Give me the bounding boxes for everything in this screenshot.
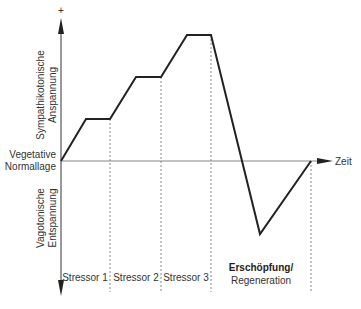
phase-label-stressor-1: Stressor 1 [62, 272, 108, 283]
svg-text:Normallage: Normallage [5, 161, 57, 172]
time-axis [61, 158, 333, 164]
upper-axis-label: Sympathikotonische Anspannung [35, 50, 58, 140]
stress-diagram: + Sympathikotonische Anspannung Vagotoni… [0, 0, 361, 309]
plus-symbol: + [58, 5, 64, 16]
phase-label-stressor-2: Stressor 2 [113, 272, 159, 283]
stress-curve [61, 35, 311, 234]
arrow-up-icon [58, 18, 64, 34]
svg-text:Anspannung: Anspannung [47, 67, 58, 123]
phase-separators [110, 35, 311, 292]
phase-label-regeneration: Regeneration [231, 275, 291, 286]
svg-text:Sympathikotonische: Sympathikotonische [35, 50, 46, 140]
svg-text:Vagotonische: Vagotonische [35, 188, 46, 248]
phase-label-stressor-3: Stressor 3 [163, 272, 209, 283]
arrow-right-icon [317, 158, 333, 164]
time-axis-label: Zeit [335, 156, 352, 167]
baseline-label: Vegetative Normallage [5, 149, 57, 172]
phase-label-exhaustion: Erschöpfung/ [229, 262, 294, 273]
svg-text:Entspannung: Entspannung [47, 189, 58, 248]
svg-text:Vegetative: Vegetative [9, 149, 56, 160]
lower-axis-label: Vagotonische Entspannung [35, 188, 58, 248]
